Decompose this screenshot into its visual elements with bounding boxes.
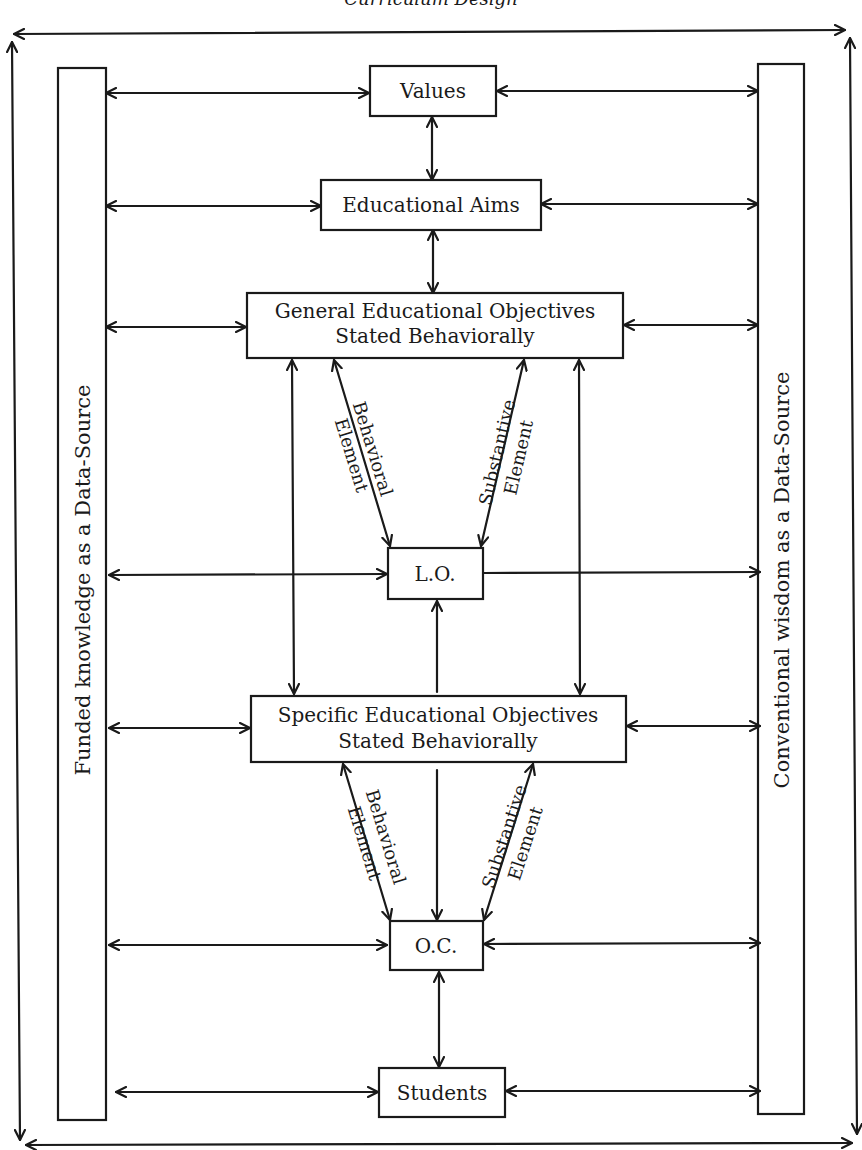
node-specific-label-line2: Stated Behaviorally <box>338 729 538 753</box>
outer-top-arrow <box>14 30 845 34</box>
running-title: Curriculum Design <box>344 0 517 9</box>
lower-behavioral-label: Behavioral Element <box>341 787 411 894</box>
node-oc-label: O.C. <box>415 934 458 958</box>
lo-left-arrow <box>109 574 387 575</box>
node-specific-label-line1: Specific Educational Objectives <box>278 703 599 727</box>
node-educational-aims: Educational Aims <box>321 180 541 230</box>
node-aims-label: Educational Aims <box>342 193 520 217</box>
curriculum-design-diagram: Curriculum Design Funded knowledge as a … <box>0 0 862 1150</box>
node-students-label: Students <box>397 1081 487 1105</box>
node-lo: L.O. <box>388 548 483 599</box>
right-source-bar: Conventional wisdom as a Data-Source <box>758 64 804 1114</box>
general-specific-right-arrow <box>579 360 580 694</box>
upper-substantive-label: Substantive Element <box>474 397 540 512</box>
general-specific-left-arrow <box>292 360 294 694</box>
node-specific-objectives: Specific Educational Objectives Stated B… <box>251 696 626 762</box>
node-lo-label: L.O. <box>414 562 455 586</box>
upper-behavioral-label: Behavioral Element <box>328 399 398 506</box>
node-oc: O.C. <box>390 921 483 970</box>
node-general-label-line1: General Educational Objectives <box>275 299 595 323</box>
node-general-label-line2: Stated Behaviorally <box>335 324 535 348</box>
lower-substantive-label: Substantive Element <box>477 782 551 898</box>
node-values: Values <box>370 66 496 116</box>
node-general-objectives: General Educational Objectives Stated Be… <box>247 293 623 358</box>
left-source-bar: Funded knowledge as a Data-Source <box>58 68 106 1120</box>
node-values-label: Values <box>399 79 466 103</box>
left-source-label: Funded knowledge as a Data-Source <box>71 385 95 776</box>
outer-right-arrow <box>850 38 857 1134</box>
node-students: Students <box>379 1068 505 1117</box>
outer-left-arrow <box>12 42 20 1140</box>
outer-bottom-arrow <box>26 1143 852 1145</box>
lo-right-arrow <box>484 572 760 573</box>
oc-right-arrow <box>484 943 760 944</box>
right-source-label: Conventional wisdom as a Data-Source <box>770 372 794 789</box>
